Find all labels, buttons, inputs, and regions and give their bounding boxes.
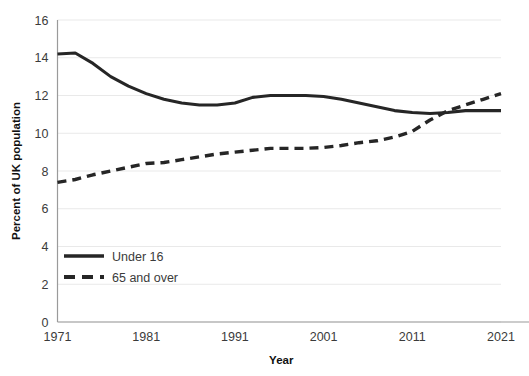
- x-tick-label: 1981: [132, 330, 160, 344]
- line-chart: 0246810121416 197119811991200120112021 U…: [0, 0, 529, 376]
- x-tick-label: 1971: [44, 330, 72, 344]
- legend-label-1: Under 16: [112, 250, 163, 264]
- chart-canvas: 0246810121416 197119811991200120112021 U…: [0, 0, 529, 376]
- x-tick-label: 1991: [221, 330, 249, 344]
- y-tick-label: 4: [42, 240, 49, 254]
- y-tick-label: 8: [42, 165, 49, 179]
- y-tick-label: 14: [35, 51, 49, 65]
- x-tick-label: 2021: [487, 330, 515, 344]
- y-axis-title: Percent of UK population: [10, 102, 22, 240]
- chart-legend: Under 1665 and over: [64, 250, 178, 285]
- x-tick-label: 2001: [310, 330, 338, 344]
- y-tick-label: 16: [35, 14, 49, 28]
- y-tick-label: 10: [35, 127, 49, 141]
- series-line-2: [58, 94, 502, 183]
- x-tick-label: 2011: [399, 330, 426, 344]
- y-axis-tick-labels: 0246810121416: [35, 14, 49, 330]
- y-tick-label: 6: [42, 202, 49, 216]
- y-tick-label: 2: [42, 278, 49, 292]
- y-tick-label: 0: [42, 316, 49, 330]
- series-line-1: [58, 53, 502, 113]
- y-tick-label: 12: [35, 89, 49, 103]
- data-series-group: [58, 53, 502, 182]
- x-axis-tick-labels: 197119811991200120112021: [44, 330, 515, 344]
- legend-label-2: 65 and over: [112, 271, 178, 285]
- x-axis-title: Year: [269, 354, 294, 366]
